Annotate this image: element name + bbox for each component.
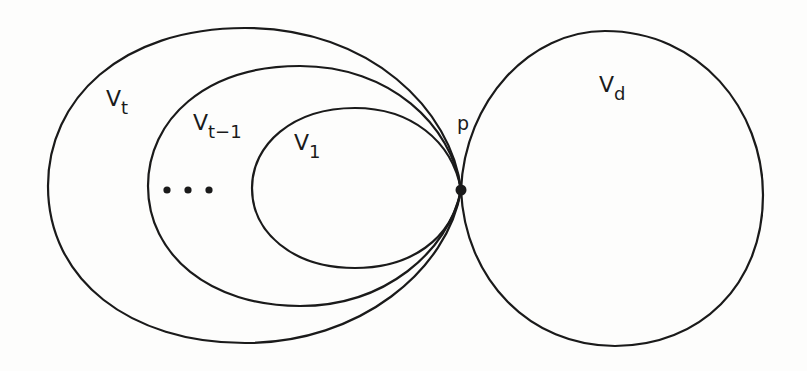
label-vd: Vd [599,72,626,104]
label-vt-1: Vt−1 [193,110,242,142]
diagram-canvas: Vt Vt−1 V1 Vd p [0,0,807,371]
set-vt-1-boundary [148,66,461,306]
set-vt-boundary [48,28,461,343]
label-vt: Vt [106,86,128,118]
point-p-marker [456,185,467,196]
set-v1-boundary [252,108,461,268]
ellipsis-dots [163,186,212,193]
label-v1: V1 [294,130,321,162]
diagram-svg: Vt Vt−1 V1 Vd p [0,0,807,371]
label-point-p: p [457,112,469,134]
